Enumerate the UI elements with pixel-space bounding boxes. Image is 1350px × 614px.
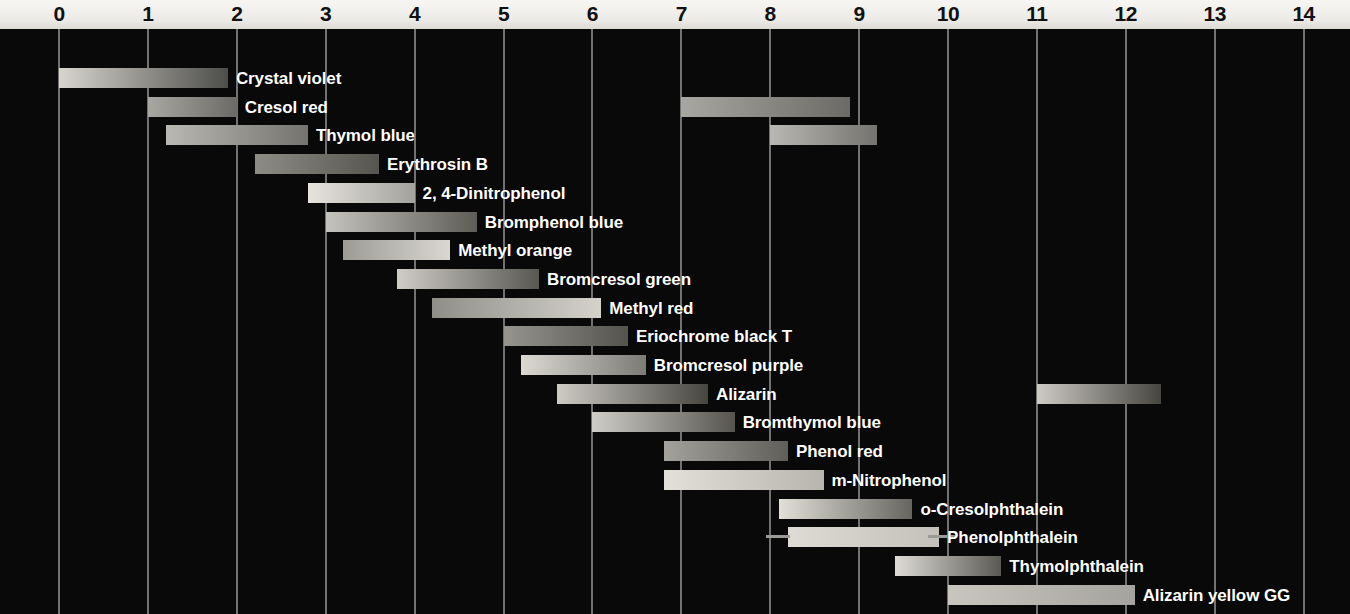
axis-tick-label-1: 1 <box>142 1 153 27</box>
axis-tick-label-12: 12 <box>1115 1 1137 27</box>
indicator-bar <box>681 97 850 117</box>
indicator-label: Methyl red <box>609 299 693 319</box>
gridline-ph-6 <box>591 29 593 614</box>
axis-tick-label-0: 0 <box>53 1 64 27</box>
gridline-ph-1 <box>147 29 149 614</box>
axis-tick-label-11: 11 <box>1026 1 1047 27</box>
axis-tick-label-6: 6 <box>587 1 598 27</box>
axis-tick-label-13: 13 <box>1204 1 1226 27</box>
indicator-bar <box>504 326 628 346</box>
indicator-bar-connector <box>766 535 790 538</box>
ph-indicator-chart: 01234567891011121314 Crystal violetCreso… <box>0 0 1350 614</box>
indicator-bar <box>895 556 1002 576</box>
indicator-label: Bromphenol blue <box>485 213 623 233</box>
gridline-ph-13 <box>1214 29 1216 614</box>
axis-tick-label-14: 14 <box>1292 1 1314 27</box>
indicator-label: Alizarin <box>716 385 777 405</box>
axis-tick-label-9: 9 <box>854 1 865 27</box>
gridline-ph-4 <box>414 29 416 614</box>
indicator-bar <box>1037 384 1161 404</box>
indicator-bar <box>788 527 939 547</box>
indicator-bar <box>166 125 308 145</box>
axis-tick-label-8: 8 <box>765 1 776 27</box>
gridline-ph-14 <box>1303 29 1305 614</box>
indicator-bar <box>521 355 645 375</box>
indicator-bar <box>343 240 450 260</box>
indicator-bar <box>592 412 734 432</box>
indicator-label: Bromcresol purple <box>654 356 803 376</box>
gridline-ph-0 <box>58 29 60 614</box>
axis-tick-label-2: 2 <box>231 1 242 27</box>
indicator-label: Phenol red <box>796 442 883 462</box>
indicator-bar <box>308 183 415 203</box>
indicator-label: Bromthymol blue <box>743 413 881 433</box>
indicator-label: Bromcresol green <box>547 270 691 290</box>
indicator-label: Thymol blue <box>316 126 415 146</box>
indicator-bar <box>397 269 539 289</box>
indicator-label: Eriochrome black T <box>636 327 792 347</box>
indicator-bar <box>326 212 477 232</box>
indicator-bar <box>432 298 601 318</box>
gridline-ph-2 <box>236 29 238 614</box>
indicator-bar <box>255 154 379 174</box>
axis-tick-label-5: 5 <box>498 1 509 27</box>
axis-tick-label-10: 10 <box>937 1 959 27</box>
axis-tick-label-3: 3 <box>320 1 331 27</box>
axis-tick-label-7: 7 <box>676 1 687 27</box>
indicator-label: o-Cresolphthalein <box>920 500 1063 520</box>
indicator-label: Cresol red <box>245 98 328 118</box>
indicator-bar <box>148 97 237 117</box>
indicator-label: Thymolphthalein <box>1009 557 1144 577</box>
indicator-label: 2, 4-Dinitrophenol <box>423 184 566 204</box>
axis-tick-label-4: 4 <box>409 1 420 27</box>
indicator-label: Alizarin yellow GG <box>1143 586 1290 606</box>
chart-plot-area: Crystal violetCresol redThymol blueEryth… <box>0 29 1350 614</box>
indicator-label: Methyl orange <box>458 241 572 261</box>
gridline-ph-12 <box>1125 29 1127 614</box>
indicator-bar <box>664 470 824 490</box>
indicator-label: Erythrosin B <box>387 155 488 175</box>
gridline-ph-11 <box>1036 29 1038 614</box>
indicator-bar <box>664 441 788 461</box>
gridline-ph-10 <box>947 29 949 614</box>
indicator-label: Crystal violet <box>236 69 341 89</box>
indicator-bar <box>770 125 877 145</box>
ph-axis-strip: 01234567891011121314 <box>0 0 1350 29</box>
indicator-label: Phenolphthalein <box>947 528 1078 548</box>
gridline-ph-8 <box>769 29 771 614</box>
indicator-bar <box>948 585 1135 605</box>
indicator-bar <box>557 384 708 404</box>
indicator-bar <box>779 499 912 519</box>
indicator-label: m-Nitrophenol <box>832 471 947 491</box>
gridline-ph-5 <box>503 29 505 614</box>
gridline-ph-7 <box>680 29 682 614</box>
indicator-bar <box>59 68 228 88</box>
